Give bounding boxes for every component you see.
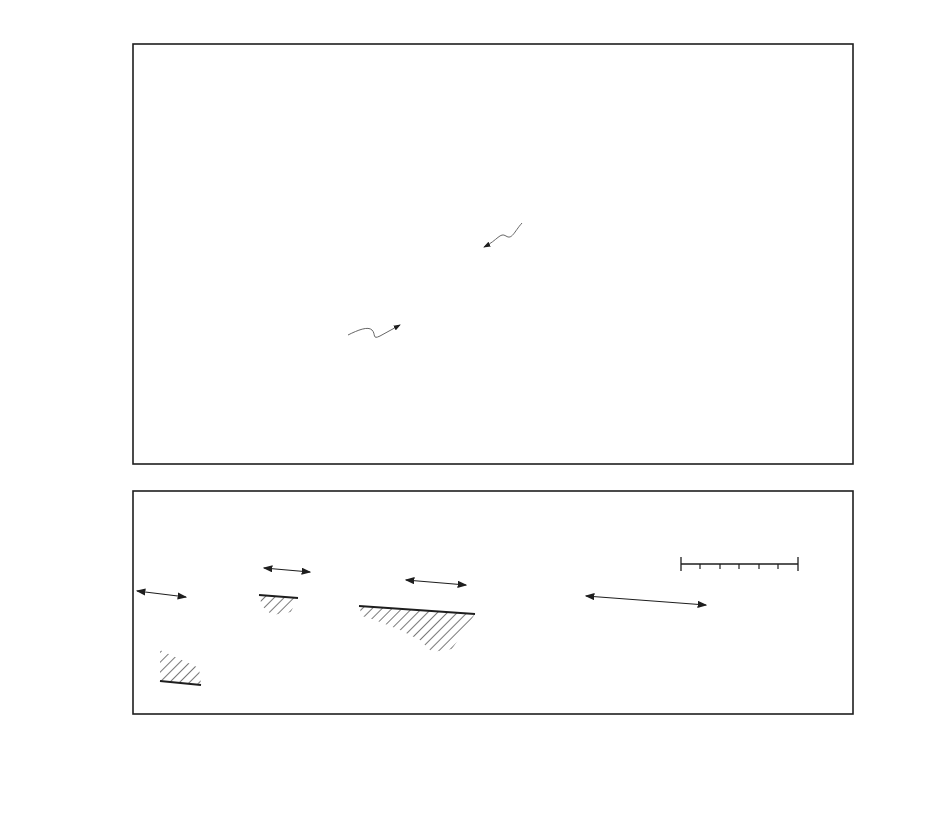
bottom-annotations bbox=[137, 568, 706, 605]
altimeter-annotation bbox=[348, 325, 400, 337]
warm-ring-extent-arrow-icon bbox=[137, 591, 186, 597]
geoid-arrow-icon bbox=[484, 223, 522, 247]
top-plot-frame bbox=[133, 44, 853, 464]
top-panel bbox=[133, 44, 853, 464]
altimeter-arrow-icon bbox=[348, 325, 400, 337]
bottom-panel bbox=[133, 491, 853, 714]
warm-ring-y-anomaly bbox=[160, 650, 201, 684]
cold-ring-4-extent-arrow-icon bbox=[406, 580, 466, 585]
geoid-annotation bbox=[484, 223, 522, 247]
figure bbox=[0, 0, 926, 830]
no-anomalies-extent-arrow-icon bbox=[586, 596, 706, 605]
scale-bar bbox=[681, 557, 798, 571]
cold-ring-1-extent-arrow-icon bbox=[264, 568, 310, 572]
bottom-plot-frame bbox=[133, 491, 853, 714]
